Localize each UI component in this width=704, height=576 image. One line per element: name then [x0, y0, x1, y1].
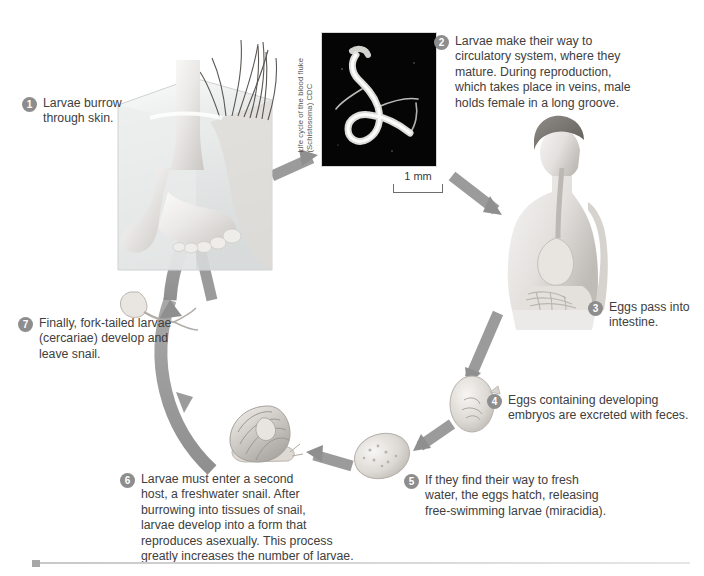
callout-step-1: 1 Larvae burrow through skin. — [22, 96, 172, 127]
step-number-badge: 1 — [22, 97, 37, 112]
arrow-torso-to-egg — [465, 313, 498, 386]
cdc-credit-label: Life cycle of the blood fluke (Schistoso… — [296, 58, 314, 153]
scale-bar — [393, 184, 443, 193]
step-number-badge: 4 — [487, 394, 502, 409]
step-text: If they find their way to fresh water, t… — [425, 473, 606, 519]
step-text: Eggs containing developing embryos are e… — [508, 393, 688, 424]
step-text: Larvae burrow through skin. — [43, 96, 122, 127]
step-number-badge: 6 — [120, 473, 135, 488]
callout-step-5: 5 If they find their way to fresh water,… — [404, 473, 652, 519]
step-text: Finally, fork-tailed larvae (cercariae) … — [39, 316, 171, 362]
step-number-badge: 3 — [588, 301, 603, 316]
foot-in-water-block-illustration — [118, 40, 277, 270]
callout-step-4: 4 Eggs containing developing embryos are… — [487, 393, 699, 424]
arrow-micrograph-to-torso — [452, 176, 502, 215]
bottom-rule — [34, 562, 690, 564]
callout-step-7: 7 Finally, fork-tailed larvae (cercariae… — [18, 316, 188, 362]
callout-step-6: 6 Larvae must enter a second host, a fre… — [120, 472, 370, 564]
arrow-egg-to-hatching-egg — [413, 424, 452, 451]
life-cycle-diagram: 1 mm Life cycle of the blood fluke (Schi… — [0, 0, 704, 576]
human-torso-illustration — [508, 116, 608, 330]
step-number-badge: 2 — [434, 35, 449, 50]
callout-step-2: 2 Larvae make their way to circulatory s… — [434, 34, 684, 111]
step-number-badge: 7 — [18, 317, 33, 332]
freshwater-snail-illustration — [230, 406, 303, 462]
arrow-foot-to-micrograph — [272, 149, 318, 176]
callout-step-3: 3 Eggs pass into intestine. — [588, 300, 700, 331]
scale-bar-label: 1 mm — [383, 170, 453, 182]
step-text: Larvae must enter a second host, a fresh… — [141, 472, 354, 564]
arrow-egg-to-snail — [306, 445, 352, 466]
step-text: Eggs pass into intestine. — [609, 300, 690, 331]
step-number-badge: 5 — [404, 474, 419, 489]
schistosome-micrograph — [322, 33, 436, 166]
step-text: Larvae make their way to circulatory sys… — [455, 34, 631, 111]
